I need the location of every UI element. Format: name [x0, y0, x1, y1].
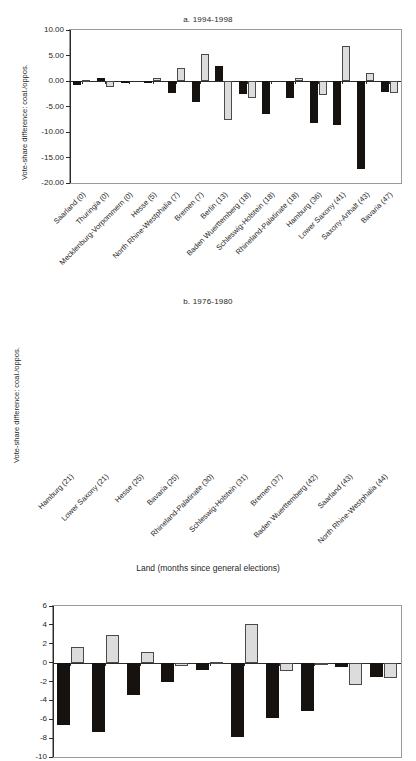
bar	[161, 663, 174, 683]
bar	[333, 81, 341, 125]
x-axis-category-label: Schleswig-Holstein (31)	[243, 416, 305, 478]
x-axis-category-label: Bremen (37)	[278, 443, 314, 479]
bar	[175, 663, 188, 667]
bar	[357, 81, 365, 169]
x-axis-category-label: North Rhine-Westphalia (44)	[383, 405, 416, 478]
bar	[141, 652, 154, 662]
panel-a-title: a. 1994-1998	[0, 15, 416, 24]
y-tick-label: -5.00	[46, 102, 64, 111]
bar	[280, 663, 293, 671]
bar	[245, 624, 258, 663]
x-axis-category-label-text: Bremen (37)	[249, 472, 285, 508]
y-tick-label: 5.00	[48, 51, 64, 60]
bar	[319, 81, 327, 95]
y-tick-label: 0.00	[48, 76, 64, 85]
y-tick-label: -6	[40, 714, 47, 723]
x-axis-category-label-text: Rhineland-Palatinate (30)	[148, 472, 215, 539]
y-tick-label: -15.00	[41, 153, 64, 162]
bar	[210, 662, 223, 664]
bar	[231, 663, 244, 738]
figure-x-axis-caption: Land (months since general elections)	[0, 563, 416, 573]
panel-b-plot-area: 6420-2-4-6-8-10	[52, 605, 402, 758]
x-axis-category-label-text: Hesse (25)	[113, 472, 145, 504]
bar	[57, 663, 70, 725]
bar	[177, 68, 185, 81]
bar	[384, 663, 397, 678]
chart-panel-a: a. 1994-1998 Vote-share difference: coal…	[0, 0, 416, 292]
x-axis-category-label: Rhineland-Palatinate (30)	[209, 412, 276, 479]
x-axis-category-label: Baden Wuerttemberg (42)	[313, 411, 381, 479]
bar	[248, 81, 256, 98]
bar	[144, 81, 152, 83]
y-tick-label: 10.00	[44, 25, 64, 34]
panel-b-bars	[53, 606, 401, 757]
y-tick-label: -10.00	[41, 127, 64, 136]
bar	[92, 663, 105, 732]
x-axis-category-label-text: Baden Wuerttemberg (42)	[252, 472, 320, 540]
bar	[262, 81, 270, 114]
y-tick-label: 0	[43, 658, 47, 667]
bar	[342, 46, 350, 81]
y-tick-label: 4	[43, 620, 47, 629]
bar	[106, 81, 114, 87]
bar	[97, 78, 105, 81]
bar	[224, 81, 232, 120]
bar	[192, 81, 200, 102]
bar	[286, 81, 294, 98]
panel-b-title: b. 1976-1980	[0, 297, 416, 306]
y-tick-label: -8	[40, 733, 47, 742]
bar	[121, 81, 129, 83]
panel-a-y-axis-label: Vote-share difference: coal./oppos.	[20, 64, 29, 180]
y-tick-label: 2	[43, 639, 47, 648]
bar	[366, 73, 374, 81]
bar	[215, 66, 223, 81]
x-axis-category-label-text: Bavaria (25)	[145, 472, 180, 507]
panel-b-y-axis-label: Vote-share difference: coal./oppos.	[12, 347, 21, 463]
bar	[71, 647, 84, 663]
bar	[201, 54, 209, 81]
y-tick-label: -20.00	[41, 178, 64, 187]
x-axis-category-label-text: Schleswig-Holstein (31)	[188, 472, 250, 534]
bar	[310, 81, 318, 123]
y-tick-label: -4	[40, 695, 47, 704]
y-tick-label: 6	[43, 601, 47, 610]
bar	[381, 81, 389, 92]
bar	[349, 663, 362, 686]
bar	[73, 81, 81, 85]
bar	[168, 81, 176, 93]
bar	[390, 81, 398, 93]
bar	[82, 80, 90, 82]
bar	[315, 663, 328, 665]
bar	[196, 663, 209, 671]
y-tick-label: -10	[35, 752, 47, 761]
bar	[153, 78, 161, 81]
x-axis-category-label: Hesse (25)	[139, 446, 171, 478]
chart-panel-b: b. 1976-1980 Vote-share difference: coal…	[0, 292, 416, 584]
bar	[335, 663, 348, 668]
bar	[239, 81, 247, 94]
y-tick-label: -2	[40, 677, 47, 686]
bar	[106, 635, 119, 662]
bar	[370, 663, 383, 677]
bar	[266, 663, 279, 719]
bar	[295, 78, 303, 81]
bar	[301, 663, 314, 711]
x-axis-category-label-text: North Rhine-Westphalia (44)	[315, 472, 388, 545]
bar	[127, 663, 140, 695]
x-axis-category-label: Bavaria (25)	[174, 443, 209, 478]
